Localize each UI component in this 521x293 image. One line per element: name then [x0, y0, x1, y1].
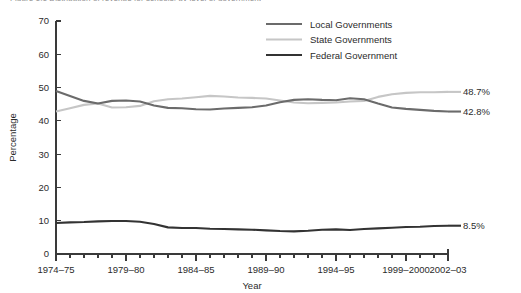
y-axis-tick-label: 20 [38, 182, 49, 193]
series-end-label: 48.7% [463, 86, 490, 97]
legend-label: State Governments [310, 34, 392, 45]
y-axis-tick-label: 60 [38, 49, 49, 60]
x-axis-tick-label: 1979–80 [108, 264, 145, 275]
legend-label: Federal Government [310, 50, 397, 61]
legend-label: Local Governments [310, 19, 393, 30]
x-axis-tick-label: 1989–90 [248, 264, 285, 275]
x-axis-tick-label: 1999–2000 [382, 264, 430, 275]
y-axis-tick-label: 30 [38, 149, 49, 160]
y-axis-tick-label: 10 [38, 215, 49, 226]
x-axis-tick-label: 1984–85 [178, 264, 215, 275]
x-axis-tick-label: 1974–75 [38, 264, 75, 275]
series-line [56, 221, 448, 231]
series-end-label: 8.5% [463, 220, 485, 231]
x-axis-tick-label: 2002–03 [430, 264, 467, 275]
x-axis-tick-label: 1994–95 [318, 264, 355, 275]
line-chart: 0102030405060701974–751979–801984–851989… [0, 0, 521, 293]
y-axis-title: Percentage [7, 113, 18, 162]
y-axis-tick-label: 0 [44, 248, 49, 259]
series-end-label: 42.8% [463, 106, 490, 117]
figure-container: Figure 1.1 Distribution of revenue for s… [0, 0, 521, 293]
y-axis-tick-label: 40 [38, 115, 49, 126]
y-axis-tick-label: 70 [38, 15, 49, 26]
x-axis-title: Year [242, 280, 261, 291]
y-axis-tick-label: 50 [38, 82, 49, 93]
